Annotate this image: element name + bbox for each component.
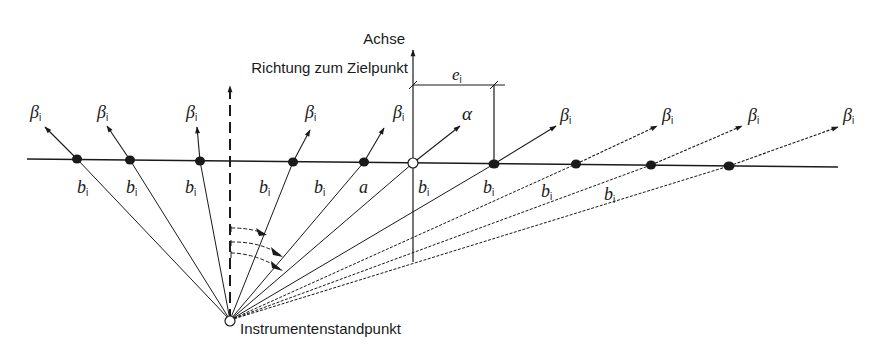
station-rays [77,159,729,320]
eccentricity-label: ei [452,65,462,85]
svg-text:bi: bi [259,177,270,198]
svg-text:bi: bi [483,177,494,198]
measured-point [724,162,735,171]
svg-text:βi: βi [96,102,108,123]
alpha-arrow [413,126,460,163]
eccentricity-dimension [409,81,505,164]
measured-point [646,161,656,170]
svg-text:bi: bi [126,177,137,198]
measured-point [571,160,581,169]
svg-text:bi: bi [604,184,615,205]
svg-text:bi: bi [314,177,325,198]
svg-text:bi: bi [185,177,196,198]
beta-arrow [494,126,556,164]
svg-text:βi: βi [661,105,673,126]
beta-arrow [293,130,310,162]
svg-text:βi: βi [392,102,404,123]
measured-point [72,155,82,164]
measured-point [489,160,500,169]
alpha-label: α [462,103,473,124]
beta-arrow [107,126,130,160]
measured-point [195,157,205,166]
measured-point [288,158,298,167]
ray-labels: bi bi bi bi bi a bi bi bi bi [77,177,615,205]
svg-text:βi: βi [185,102,197,123]
svg-text:βi: βi [842,105,854,126]
angle-arcs [231,226,283,271]
reference-point-open [408,158,418,168]
beta-arrow [364,128,384,162]
measured-point [125,156,135,165]
surveying-diagram: Achse Richtung zum Zielpunkt Instrumente… [0,0,881,352]
svg-text:βi: βi [747,105,759,126]
svg-text:βi: βi [29,102,41,123]
svg-text:bi: bi [541,181,552,202]
beta-arrow [197,127,200,161]
target-direction-label: Richtung zum Zielpunkt [251,59,409,76]
beta-arrow [729,127,838,166]
beta-arrow [45,127,77,159]
svg-text:βi: βi [559,105,571,126]
svg-text:βi: βi [304,102,316,123]
a-label: a [359,177,368,197]
beta-arrow [576,126,657,164]
station-label: Instrumentenstandpunkt [240,320,402,337]
svg-text:bi: bi [77,177,88,198]
instrument-station-point [225,316,235,326]
beta-arrow [651,126,742,165]
beta-labels: βi βi βi βi βi βi βi βi βi [29,102,854,126]
axis-label: Achse [363,30,405,47]
measured-point [359,158,369,167]
baseline [27,159,838,167]
svg-text:bi: bi [418,177,429,198]
